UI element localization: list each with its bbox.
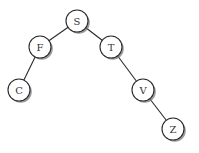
tree-node-v: V	[132, 79, 156, 103]
node-label: T	[108, 42, 115, 53]
node-label: C	[15, 85, 23, 96]
tree-node-s: S	[66, 10, 90, 34]
node-label: S	[74, 16, 81, 27]
node-label: Z	[170, 124, 177, 135]
node-label: F	[37, 42, 44, 53]
node-label: V	[138, 85, 147, 96]
tree-node-z: Z	[162, 118, 186, 142]
tree-node-f: F	[29, 36, 53, 60]
tree-node-c: C	[8, 79, 32, 103]
tree-nodes: SFTCVZ	[8, 10, 186, 142]
tree-diagram: SFTCVZ	[0, 0, 199, 153]
tree-node-t: T	[100, 36, 124, 60]
